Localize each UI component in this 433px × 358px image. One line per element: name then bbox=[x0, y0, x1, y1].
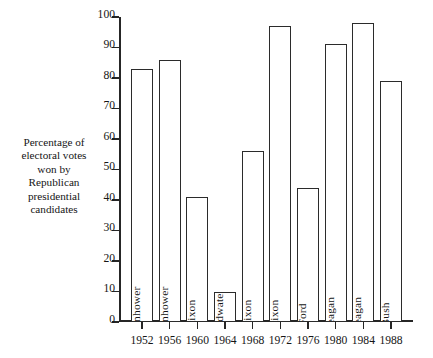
bar-label: Nixon bbox=[242, 299, 253, 322]
y-axis-caption-line: Republican bbox=[2, 176, 106, 189]
x-tick-mark bbox=[252, 322, 254, 329]
y-axis-caption-line: candidates bbox=[2, 203, 106, 216]
y-tick-label: 20 bbox=[103, 253, 115, 265]
bar: Nixon bbox=[269, 26, 291, 322]
bar: Goldwater bbox=[214, 292, 236, 323]
y-tick-label: 0 bbox=[109, 314, 115, 326]
x-tick-mark bbox=[307, 322, 309, 329]
bar: Nixon bbox=[242, 151, 264, 322]
y-axis-caption-line: won by bbox=[2, 163, 106, 176]
bar-label: Bush bbox=[380, 302, 391, 322]
y-tick-label: 50 bbox=[103, 161, 115, 173]
y-tick-label: 10 bbox=[103, 283, 115, 295]
x-tick-mark bbox=[224, 322, 226, 329]
x-tick-mark bbox=[141, 322, 143, 329]
bar: Eisenhower bbox=[131, 69, 153, 322]
y-tick-label: 80 bbox=[103, 70, 115, 82]
x-tick-mark bbox=[363, 322, 365, 329]
y-axis-caption-line: electoral votes bbox=[2, 149, 106, 162]
bar-chart-figure: Percentage of electoral votes won by Rep… bbox=[0, 0, 433, 358]
x-tick-mark bbox=[280, 322, 282, 329]
y-axis-caption: Percentage of electoral votes won by Rep… bbox=[2, 136, 106, 216]
x-tick-mark bbox=[335, 322, 337, 329]
bar-label: Eisenhower bbox=[159, 286, 170, 322]
bar: Nixon bbox=[186, 197, 208, 322]
y-tick-label: 40 bbox=[103, 192, 115, 204]
y-tick-label: 60 bbox=[103, 131, 115, 143]
bar-label: Ford bbox=[297, 303, 308, 322]
bar-label: Nixon bbox=[269, 299, 280, 322]
bar-label: Nixon bbox=[186, 299, 197, 322]
y-tick-label: 70 bbox=[103, 100, 115, 112]
bar-label: Goldwater bbox=[214, 292, 225, 323]
y-tick-label: 30 bbox=[103, 222, 115, 234]
bar: Reagan bbox=[325, 44, 347, 322]
bar: Reagan bbox=[352, 23, 374, 322]
y-tick-label: 100 bbox=[98, 9, 115, 21]
x-tick-mark bbox=[390, 322, 392, 329]
y-tick-label: 90 bbox=[103, 39, 115, 51]
bar: Bush bbox=[380, 81, 402, 322]
y-axis-line bbox=[119, 17, 121, 322]
bar-label: Reagan bbox=[325, 296, 336, 322]
x-tick-label: 1988 bbox=[370, 335, 412, 347]
y-axis-caption-line: presidential bbox=[2, 190, 106, 203]
y-axis-caption-line: Percentage of bbox=[2, 136, 106, 149]
plot-area: 0102030405060708090100 19521956196019641… bbox=[119, 17, 413, 322]
bar: Ford bbox=[297, 188, 319, 322]
bar: Eisenhower bbox=[159, 60, 181, 322]
bar-label: Reagan bbox=[352, 296, 363, 322]
x-tick-mark bbox=[169, 322, 171, 329]
x-tick-mark bbox=[197, 322, 199, 329]
bar-label: Eisenhower bbox=[131, 286, 142, 322]
